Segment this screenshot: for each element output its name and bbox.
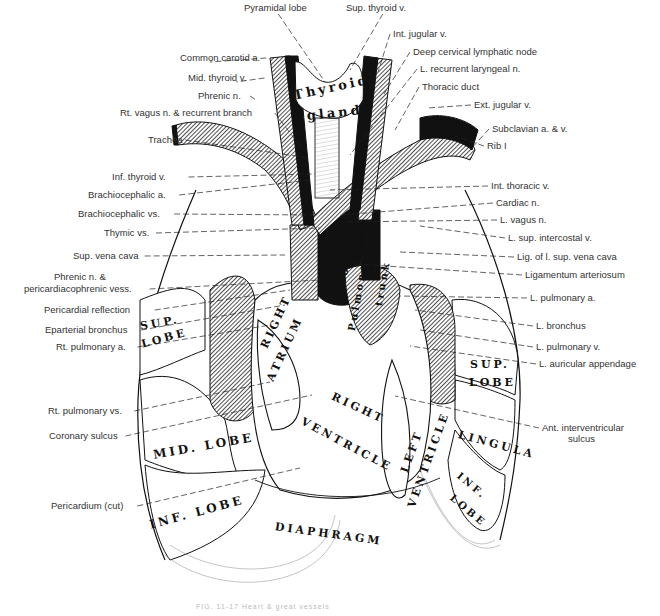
label-l-sup-intercostal-v: L. sup. intercostal v.: [508, 232, 592, 243]
label-thoracic-duct: Thoracic duct: [422, 81, 479, 92]
label-trachea: Trachea: [148, 134, 183, 145]
label-pericardium-cut: Pericardium (cut): [51, 500, 123, 511]
label-deep-cervical-lymphatic-node: Deep cervical lymphatic node: [413, 46, 537, 57]
label-int-jugular-v: Int. jugular v.: [393, 28, 447, 39]
leader-line: [420, 226, 505, 238]
leader-line: [428, 105, 471, 108]
label-eparterial-bronchus: Eparterial bronchus: [45, 324, 127, 335]
label-brachiocephalic-a: Brachiocephalic a.: [88, 189, 166, 200]
label-coronary-sulcus: Coronary sulcus: [49, 430, 118, 441]
label-l-pulmonary-v: L. pulmonary v.: [536, 341, 600, 352]
leader-line: [395, 87, 419, 130]
label-rt-vagus-n-recurrent-branch: Rt. vagus n. & recurrent branch: [120, 107, 252, 118]
label-lig-of-l-sup-vena-cava: Lig. of l. sup. vena cava: [517, 251, 617, 262]
label-pericardiacophrenic-vess: pericardiacophrenic vess.: [24, 283, 132, 294]
label-ant-interventricular: Ant. interventricular: [542, 422, 624, 433]
label-phrenic-n: Phrenic n. &: [54, 271, 106, 282]
label-ext-jugular-v: Ext. jugular v.: [474, 99, 531, 110]
label-common-carotid-a: Common carotid a.: [180, 52, 260, 63]
figure-caption: FIG. 11-17 Heart & great vessels: [196, 603, 330, 610]
label-l-pulmonary-a: L. pulmonary a.: [530, 292, 595, 303]
label-sulcus: sulcus: [568, 433, 595, 444]
leader-line: [400, 252, 514, 257]
label-pericardial-reflection: Pericardial reflection: [44, 304, 130, 315]
label-l-vagus-n: L. vagus n.: [500, 214, 546, 225]
organ-label-lobe: LOBE: [469, 376, 516, 389]
anatomy-figure: Common carotid a.Mid. thyroid v.Phrenic …: [0, 0, 660, 616]
label-rt-pulmonary-a: Rt. pulmonary a.: [56, 341, 126, 352]
label-thymic-vs: Thymic vs.: [104, 227, 149, 238]
label-l-auricular-appendage: L. auricular appendage: [539, 358, 636, 369]
label-subclavian-a-v: Subclavian a. & v.: [492, 123, 567, 134]
label-phrenic-n: Phrenic n.: [198, 90, 241, 101]
label-l-bronchus: L. bronchus: [536, 320, 586, 331]
label-rt-pulmonary-vs: Rt. pulmonary vs.: [48, 405, 122, 416]
label-pyramidal-lobe: Pyramidal lobe: [244, 2, 307, 13]
label-rib-i: Rib I: [487, 140, 507, 151]
organ-label-sup: SUP.: [470, 358, 510, 371]
label-cardiac-n: Cardiac n.: [496, 197, 539, 208]
label-sup-vena-cava: Sup. vena cava: [73, 250, 139, 261]
leader-line: [145, 255, 285, 256]
label-int-thoracic-v: Int. thoracic v.: [491, 180, 549, 191]
label-l-recurrent-laryngeal-n: L. recurrent laryngeal n.: [420, 63, 520, 74]
label-brachiocephalic-vs: Brachiocephalic vs.: [78, 208, 160, 219]
label-ligamentum-arteriosum: Ligamentum arteriosum: [525, 269, 625, 280]
label-sup-thyroid-v: Sup. thyroid v.: [346, 2, 406, 13]
label-inf-thyroid-v: Inf. thyroid v.: [112, 171, 166, 182]
label-mid-thyroid-v: Mid. thyroid v.: [188, 72, 246, 83]
leader-line: [250, 96, 256, 100]
